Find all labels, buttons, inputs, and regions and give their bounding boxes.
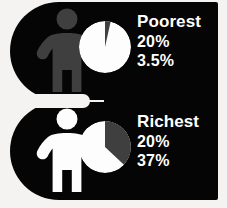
row-value-poorest: 3.5% <box>137 51 201 70</box>
row-share-poorest: 20% <box>137 32 201 51</box>
row-divider-notch <box>28 94 90 108</box>
row-share-richest: 20% <box>137 132 199 151</box>
pie-chart-icon-richest <box>79 121 131 173</box>
text-block-richest: Richest 20% 37% <box>137 112 199 170</box>
row-label-poorest: Poorest <box>137 12 201 32</box>
text-block-poorest: Poorest 20% 3.5% <box>137 12 201 70</box>
row-value-richest: 37% <box>137 151 199 170</box>
infographic-panel: Poorest 20% 3.5% Richest 20% 37% <box>0 0 227 208</box>
row-label-richest: Richest <box>137 112 199 132</box>
pie-chart-icon-poorest <box>79 21 131 73</box>
